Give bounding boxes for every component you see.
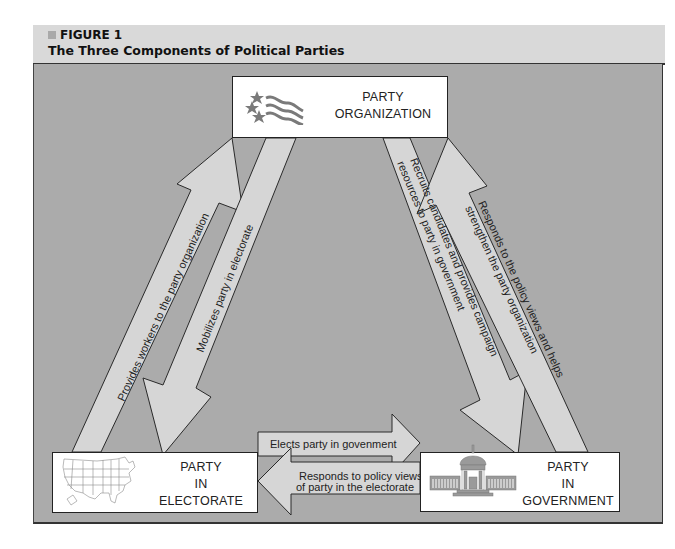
label-responds-line2: of party in the electorate <box>296 481 414 493</box>
government-label-line2: IN <box>517 476 619 493</box>
electorate-label-line3: ELECTORATE <box>145 493 257 510</box>
us-map-icon <box>59 455 137 507</box>
capitol-building-icon <box>427 443 519 503</box>
organization-label-line1: PARTY <box>323 89 443 106</box>
organization-label-line2: ORGANIZATION <box>323 106 443 123</box>
electorate-label-line1: PARTY <box>145 459 257 476</box>
node-party-in-electorate: PARTY IN ELECTORATE <box>52 452 258 513</box>
electorate-label-line2: IN <box>145 476 257 493</box>
label-elects: Elects party in govenment <box>270 438 397 450</box>
flag-stars-icon <box>245 91 309 125</box>
node-party-organization: PARTY ORGANIZATION <box>232 76 448 138</box>
node-party-in-government: PARTY IN GOVERNMENT <box>420 452 620 512</box>
government-label-line3: GOVERNMENT <box>517 493 619 510</box>
government-label-line1: PARTY <box>517 459 619 476</box>
